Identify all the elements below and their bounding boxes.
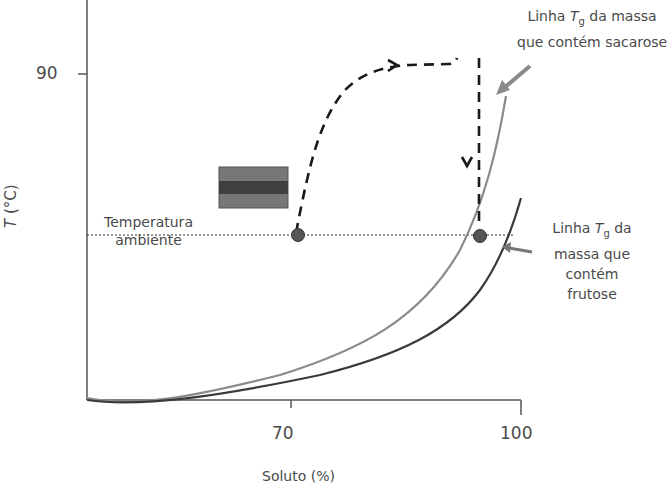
y-axis-unit: (°C) [2, 184, 20, 218]
y-axis-symbol: T [2, 219, 20, 228]
start-point-marker [292, 229, 305, 242]
sucrose-annotation-line2: que contém sacarose [517, 32, 667, 52]
x-axis-label: Soluto (%) [262, 467, 335, 486]
fructose-annotation-line1: Linha Tg da [532, 218, 652, 244]
y-axis-label: T (°C) [2, 184, 21, 228]
x-tick-70: 70 [272, 424, 294, 443]
fructose-annotation-line2: massa que [532, 244, 652, 264]
process-path-heating [296, 58, 457, 233]
sample-middle-layer [219, 181, 288, 194]
sucrose-callout-arrow [504, 66, 530, 88]
fructose-tg-annotation: Linha Tg da massa que contém frutose [532, 218, 652, 304]
arrow-down-icon [462, 157, 472, 166]
fructose-arrowhead-icon [502, 242, 511, 253]
end-point-marker [474, 230, 487, 243]
y-tick-90: 90 [36, 64, 58, 83]
fructose-annotation-line4: frutose [532, 284, 652, 304]
sucrose-annotation-line1: Linha Tg da massa [517, 6, 667, 32]
ambient-label-line2: ambiente [104, 231, 193, 249]
fructose-callout-arrow [509, 248, 532, 252]
sucrose-tg-annotation: Linha Tg da massa que contém sacarose [517, 6, 667, 52]
ambient-temperature-label: Temperatura ambiente [104, 213, 193, 249]
x-tick-100: 100 [500, 424, 532, 443]
ambient-label-line1: Temperatura [104, 213, 193, 231]
fructose-annotation-line3: contém [532, 264, 652, 284]
